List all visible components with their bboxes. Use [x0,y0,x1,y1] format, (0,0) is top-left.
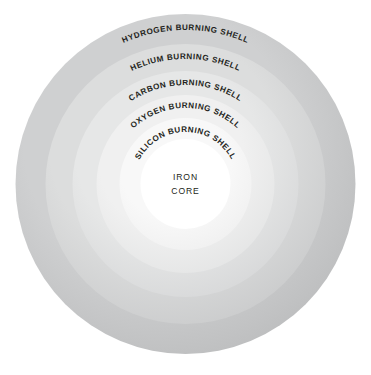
stellar-onion-diagram: HYDROGEN BURNING SHELL HELIUM BURNING SH… [0,0,371,375]
core-label-line-2: CORE [171,186,199,196]
stellar-layers-figure: HYDROGEN BURNING SHELL HELIUM BURNING SH… [0,0,371,375]
core-label-line-1: IRON [173,172,198,182]
shell-ring-iron-core [141,139,231,229]
